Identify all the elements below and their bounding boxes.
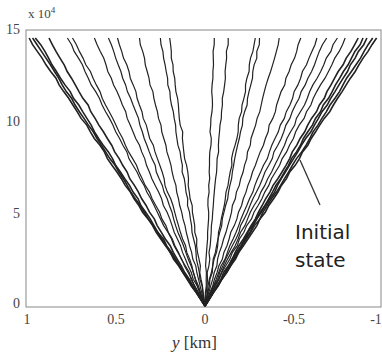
y-tick-0: 0 xyxy=(0,296,20,312)
x-tick-0.5: 0.5 xyxy=(107,312,125,328)
x-tick--0.5: -0.5 xyxy=(283,312,305,328)
y-tick-15: 15 xyxy=(0,22,20,38)
annotation-line1: Initial xyxy=(295,218,350,246)
plot-area xyxy=(0,0,382,357)
initial-state-annotation: Initial state xyxy=(295,218,350,274)
annotation-line2: state xyxy=(295,246,350,274)
x-axis-label: y [km] xyxy=(172,333,217,353)
x-tick-0: 0 xyxy=(202,312,209,328)
x-tick--1: -1 xyxy=(370,312,382,328)
y-tick-10: 10 xyxy=(0,114,20,130)
y-tick-5: 5 xyxy=(0,206,20,222)
x-tick-1: 1 xyxy=(24,312,31,328)
y-multiplier: x 104 xyxy=(28,5,55,22)
